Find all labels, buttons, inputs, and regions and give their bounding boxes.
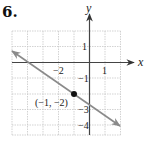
x-axis-label: x bbox=[137, 55, 144, 69]
point-marker bbox=[71, 91, 77, 97]
y-tick-label: −3 bbox=[78, 104, 89, 115]
y-tick-label: −4 bbox=[78, 120, 89, 131]
x-tick-label: −2 bbox=[53, 65, 64, 76]
y-tick-label: 1 bbox=[82, 41, 87, 52]
problem-number: 6. bbox=[2, 3, 18, 21]
coordinate-graph: 6. x y −2 1 1 −1 −3 −4 (−1, −2) bbox=[0, 0, 146, 145]
y-tick-label: −1 bbox=[78, 73, 89, 84]
y-axis-label: y bbox=[85, 1, 92, 15]
point-label: (−1, −2) bbox=[35, 97, 68, 109]
x-tick-label: 1 bbox=[102, 65, 107, 76]
grid bbox=[12, 31, 121, 135]
